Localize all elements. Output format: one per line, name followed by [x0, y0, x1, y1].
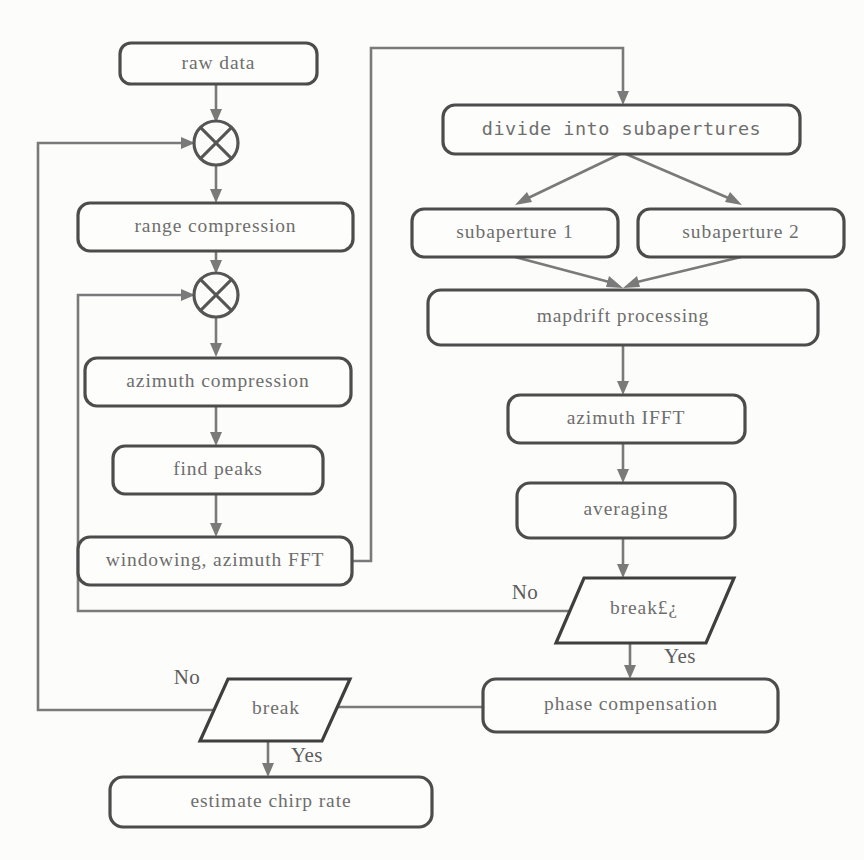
- edge-mult1-to-rangecompression: [210, 165, 222, 203]
- edge-breakinner-yes-to-phasecompensation: [624, 643, 636, 679]
- edge-mapdrift-to-azimuthifft: [617, 345, 629, 395]
- node-windowing-azimuth-fft-label: windowing, azimuth FFT: [106, 549, 325, 570]
- node-subaperture-1-label: subaperture 1: [456, 221, 573, 242]
- node-averaging-label: averaging: [584, 498, 669, 519]
- node-find-peaks[interactable]: find peaks: [113, 446, 323, 494]
- node-raw-data[interactable]: raw data: [120, 43, 317, 84]
- branch-label-no-inner: No: [512, 580, 539, 604]
- edge-divide-to-subaperture1: [515, 154, 620, 205]
- node-mixer-1[interactable]: [194, 121, 238, 165]
- node-raw-data-label: raw data: [182, 52, 256, 73]
- node-subaperture-2[interactable]: subaperture 2: [638, 209, 844, 257]
- edge-azimuthcompression-to-findpeaks: [210, 406, 222, 446]
- flowchart-canvas: back to mult2 (inner feedback loop) --> …: [0, 0, 864, 860]
- node-break-inner-decision[interactable]: break£¿: [556, 578, 734, 643]
- node-range-compression-label: range compression: [134, 215, 296, 236]
- branch-label-no-outer: No: [174, 665, 201, 689]
- node-divide-into-subapertures[interactable]: divide into subapertures: [443, 105, 800, 154]
- edge-mult2-to-azimuthcompression: [210, 317, 222, 357]
- node-break-outer-decision[interactable]: break: [200, 679, 350, 741]
- flowchart-svg: back to mult2 (inner feedback loop) --> …: [0, 0, 864, 860]
- node-mapdrift-processing[interactable]: mapdrift processing: [428, 290, 818, 345]
- node-averaging[interactable]: averaging: [517, 483, 735, 538]
- node-azimuth-compression[interactable]: azimuth compression: [85, 358, 351, 406]
- edge-findpeaks-to-windowing: [210, 494, 222, 537]
- node-windowing-azimuth-fft[interactable]: windowing, azimuth FFT: [78, 537, 352, 585]
- edge-subaperture2-to-mapdrift: [623, 257, 741, 288]
- edge-rawdata-to-mult1: [210, 84, 222, 123]
- node-mixer-2[interactable]: [194, 273, 238, 317]
- node-mapdrift-processing-label: mapdrift processing: [537, 305, 710, 326]
- edge-rangecompression-to-mult2: [210, 251, 222, 274]
- edge-subaperture1-to-mapdrift: [515, 257, 623, 288]
- node-phase-compensation[interactable]: phase compensation: [483, 679, 778, 732]
- edge-phasecompensation-to-breakouter: [322, 701, 483, 713]
- node-estimate-chirp-rate[interactable]: estimate chirp rate: [110, 777, 432, 827]
- node-azimuth-ifft[interactable]: azimuth IFFT: [508, 395, 745, 443]
- node-subaperture-1[interactable]: subaperture 1: [412, 209, 618, 257]
- branch-label-yes-outer: Yes: [291, 743, 323, 767]
- node-azimuth-compression-label: azimuth compression: [126, 370, 309, 391]
- edge-azimuthifft-to-averaging: [617, 443, 629, 483]
- node-azimuth-ifft-label: azimuth IFFT: [567, 407, 686, 428]
- node-phase-compensation-label: phase compensation: [544, 693, 718, 714]
- edge-divide-to-subaperture2: [626, 154, 742, 205]
- node-find-peaks-label: find peaks: [173, 458, 263, 479]
- node-divide-into-subapertures-label: divide into subapertures: [482, 118, 761, 139]
- node-estimate-chirp-rate-label: estimate chirp rate: [190, 790, 351, 811]
- node-break-outer-decision-label: break: [252, 697, 300, 718]
- node-range-compression[interactable]: range compression: [78, 203, 353, 251]
- edge-averaging-to-breakinner: [617, 538, 629, 578]
- node-subaperture-2-label: subaperture 2: [682, 221, 799, 242]
- branch-label-yes-inner: Yes: [664, 644, 696, 668]
- node-break-inner-decision-label: break£¿: [610, 597, 678, 618]
- edge-breakouter-yes-to-estimatechirprate: [262, 741, 274, 777]
